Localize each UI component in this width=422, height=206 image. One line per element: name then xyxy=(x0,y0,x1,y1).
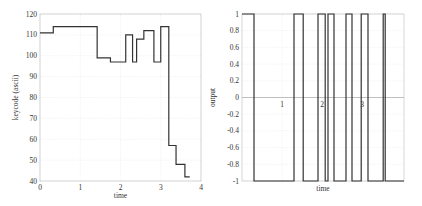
y-tick-label: 0.4 xyxy=(230,60,240,69)
chart-canvas: 40506070809010011012001234timekeycode (a… xyxy=(0,0,422,206)
x-axis-label: time xyxy=(316,184,330,193)
y-tick-label: 0 xyxy=(235,93,239,102)
y-tick-label: -0.8 xyxy=(227,160,239,169)
y-axis-label: keycode (ascii) xyxy=(11,74,20,120)
x-tick-label: 1 xyxy=(78,183,82,192)
output-plot: -1-0.8-0.6-0.4-0.200.20.40.60.81123timeo… xyxy=(208,10,404,194)
x-tick-label: 2 xyxy=(320,100,324,109)
y-tick-label: 60 xyxy=(30,135,38,144)
x-tick-label: 3 xyxy=(159,183,163,192)
y-tick-label: -0.2 xyxy=(227,110,239,119)
keycode-plot: 40506070809010011012001234timekeycode (a… xyxy=(11,10,203,201)
y-tick-label: 90 xyxy=(30,72,38,81)
x-tick-label: 1 xyxy=(280,100,284,109)
data-series-line xyxy=(40,27,190,177)
y-axis-label: output xyxy=(208,87,217,107)
y-tick-label: 0.6 xyxy=(230,43,240,52)
x-axis-label: time xyxy=(114,191,128,200)
y-tick-label: -0.6 xyxy=(227,143,239,152)
x-tick-label: 4 xyxy=(199,183,203,192)
y-tick-label: 100 xyxy=(26,51,38,60)
y-tick-label: -0.4 xyxy=(227,126,239,135)
y-tick-label: 80 xyxy=(30,93,38,102)
y-tick-label: 0.8 xyxy=(230,26,240,35)
y-tick-label: -1 xyxy=(233,177,239,186)
x-tick-label: 0 xyxy=(38,183,42,192)
y-tick-label: 40 xyxy=(30,177,38,186)
y-tick-label: 120 xyxy=(26,10,38,19)
y-tick-label: 0.2 xyxy=(230,76,240,85)
y-tick-label: 50 xyxy=(30,156,38,165)
y-tick-label: 70 xyxy=(30,114,38,123)
y-tick-label: 110 xyxy=(26,30,37,39)
y-tick-label: 1 xyxy=(235,10,239,19)
